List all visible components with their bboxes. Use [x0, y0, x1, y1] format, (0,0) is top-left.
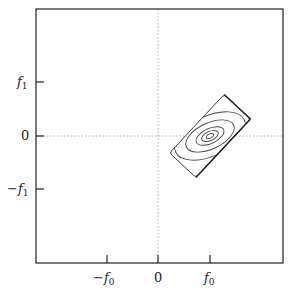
- y-tick-label-neg-f1: −f1: [7, 181, 28, 198]
- constraint-region: [170, 94, 251, 177]
- y-tick-label-zero: 0: [21, 128, 29, 143]
- x-tick-label-f0: f0: [203, 270, 215, 287]
- x-ticks: [107, 255, 210, 263]
- contour-figure: −f0 0 f0 f1 0 −f1: [0, 0, 294, 292]
- y-tick-label-f1: f1: [16, 74, 28, 91]
- y-ticks: [36, 82, 44, 189]
- x-tick-label-neg-f0: −f0: [93, 270, 115, 287]
- x-tick-label-zero: 0: [154, 270, 162, 285]
